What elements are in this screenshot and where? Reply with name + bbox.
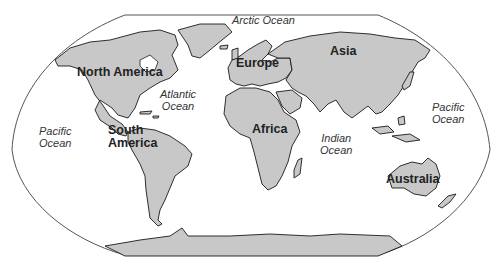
- label-arctic-ocean: Arctic Ocean: [232, 15, 295, 27]
- label-europe: Europe: [236, 57, 279, 70]
- label-indian-ocean: Indian Ocean: [320, 133, 352, 156]
- label-north-america: North America: [77, 66, 163, 79]
- label-africa: Africa: [252, 123, 287, 136]
- label-atlantic-ocean: Atlantic Ocean: [160, 89, 196, 112]
- label-pacific-ocean-east: Pacific Ocean: [432, 102, 464, 125]
- label-asia: Asia: [330, 45, 356, 58]
- label-pacific-ocean-west: Pacific Ocean: [39, 126, 71, 149]
- label-australia: Australia: [386, 173, 440, 186]
- world-map: [0, 0, 501, 269]
- label-south-america: South America: [108, 124, 157, 150]
